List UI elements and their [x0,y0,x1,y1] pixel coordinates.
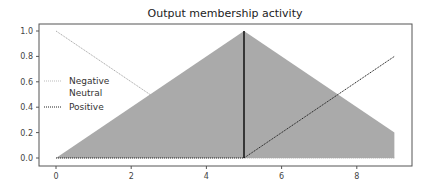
x-tick-label: 0 [53,172,58,181]
x-tick-label: 6 [279,172,284,181]
chart-title: Output membership activity [148,7,303,20]
legend-label-neutral: Neutral [69,88,102,98]
y-tick-label: 0.8 [20,52,33,61]
chart-svg: Output membership activity 02468 0.00.20… [0,0,429,186]
x-tick-label: 8 [354,172,359,181]
y-tick-label: 0.2 [20,129,33,138]
y-tick-label: 0.0 [20,154,33,163]
y-tick-label: 1.0 [20,27,33,36]
y-tick-label: 0.4 [20,103,33,112]
chart-figure: Output membership activity 02468 0.00.20… [0,0,429,186]
x-axis-ticks: 02468 [53,166,359,181]
x-tick-label: 2 [129,172,134,181]
legend-label-negative: Negative [69,76,110,86]
y-tick-label: 0.6 [20,78,33,87]
legend-label-positive: Positive [69,102,104,112]
x-tick-label: 4 [204,172,209,181]
y-axis-ticks: 0.00.20.40.60.81.0 [20,27,39,163]
